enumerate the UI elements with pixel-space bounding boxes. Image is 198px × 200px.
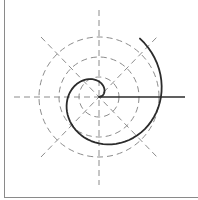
spiral-curve [67,39,162,145]
spiral-diagram [0,0,198,200]
diagram-frame [0,0,198,200]
curve-layer [67,39,185,145]
